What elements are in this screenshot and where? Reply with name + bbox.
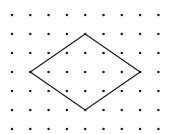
grid-dot [66, 109, 69, 112]
grid-dot [157, 14, 160, 17]
grid-dot [157, 109, 160, 112]
grid-dot [102, 128, 105, 131]
grid-dot [29, 109, 32, 112]
grid-dot [102, 90, 105, 93]
grid-dot [84, 14, 87, 17]
grid-dot [11, 52, 14, 55]
grid-dot [139, 128, 142, 131]
grid-dot [121, 14, 124, 17]
grid-dot [11, 128, 14, 131]
grid-dot [102, 52, 105, 55]
grid-dot [29, 33, 32, 36]
grid-dot [66, 90, 69, 93]
grid-dot [47, 52, 50, 55]
grid-dot [11, 90, 14, 93]
grid-dot [84, 90, 87, 93]
grid-dot [139, 33, 142, 36]
grid-dot [29, 128, 32, 131]
grid-dot [29, 14, 32, 17]
grid-dot [29, 90, 32, 93]
grid-dot [121, 33, 124, 36]
grid-dot [66, 128, 69, 131]
grid-dot [121, 109, 124, 112]
grid-dot [11, 109, 14, 112]
grid-dot [139, 90, 142, 93]
grid-dot [102, 109, 105, 112]
grid-dot [84, 128, 87, 131]
grid-dot [66, 33, 69, 36]
grid-dot [84, 71, 87, 74]
grid-dot [157, 71, 160, 74]
grid-dot [139, 52, 142, 55]
grid-dot [139, 14, 142, 17]
grid-dot [11, 71, 14, 74]
grid-dot [11, 33, 14, 36]
grid-dot [102, 33, 105, 36]
grid-dot [121, 128, 124, 131]
grid-dot [121, 71, 124, 74]
grid-dot [157, 128, 160, 131]
grid-dot [47, 109, 50, 112]
grid-dot [66, 52, 69, 55]
grid-dot [84, 52, 87, 55]
grid-dot [47, 33, 50, 36]
grid-dot [102, 14, 105, 17]
grid-dot [66, 71, 69, 74]
grid-dot [29, 52, 32, 55]
grid-dot [47, 90, 50, 93]
grid-dot [47, 14, 50, 17]
grid-dot [121, 52, 124, 55]
grid-dot [139, 109, 142, 112]
grid-dots [11, 14, 160, 131]
grid-dot [66, 14, 69, 17]
dot-grid-diagram [0, 0, 175, 134]
grid-dot [157, 90, 160, 93]
grid-dot [102, 71, 105, 74]
grid-dot [47, 128, 50, 131]
grid-dot [157, 52, 160, 55]
grid-dot [121, 90, 124, 93]
grid-dot [47, 71, 50, 74]
grid-dot [11, 14, 14, 17]
grid-dot [157, 33, 160, 36]
